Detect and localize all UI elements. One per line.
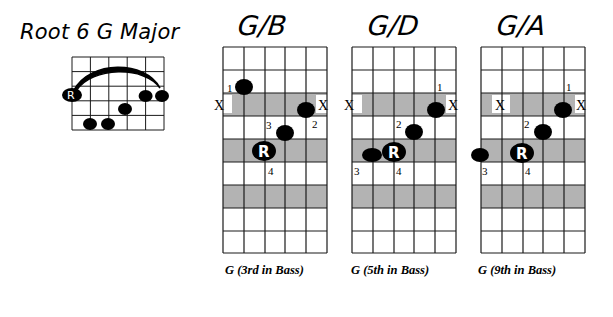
finger-dot-3 <box>276 125 294 141</box>
mute-marker: X <box>448 98 458 113</box>
root-label: R <box>516 145 528 163</box>
finger-number-3: 3 <box>482 165 488 177</box>
note-dot <box>139 90 153 102</box>
fretboard-g-b: R X X 1 2 3 4 <box>212 47 336 253</box>
finger-dot-3 <box>362 148 382 162</box>
finger-number-2: 2 <box>312 118 318 130</box>
barre-arc <box>74 67 160 91</box>
finger-number-4: 4 <box>396 165 402 177</box>
note-dot <box>155 90 169 102</box>
finger-number-1: 1 <box>566 81 572 93</box>
root-label: R <box>67 89 75 102</box>
finger-dot-2 <box>405 124 423 140</box>
finger-number-4: 4 <box>268 165 274 177</box>
fretboard-g-d: R X X 1 2 3 4 <box>342 47 466 253</box>
caption-g-b: G (3rd in Bass) <box>225 263 304 278</box>
mute-marker: X <box>344 98 354 113</box>
note-dot <box>118 103 132 115</box>
finger-dot-1 <box>554 102 572 118</box>
mute-marker: X <box>318 98 328 113</box>
reference-notes <box>62 88 169 130</box>
fretboard-g-a: R X X 1 2 3 4 <box>471 47 595 253</box>
finger-number-3: 3 <box>354 165 360 177</box>
caption-g-a: G (9th in Bass) <box>478 263 556 278</box>
finger-number-3: 3 <box>266 119 272 131</box>
finger-number-1: 1 <box>227 82 233 94</box>
finger-dot-1 <box>427 102 445 118</box>
finger-number-2: 2 <box>524 118 530 130</box>
caption-g-d: G (5th in Bass) <box>351 263 429 278</box>
finger-number-4: 4 <box>525 165 531 177</box>
mute-marker: X <box>214 98 224 113</box>
mute-marker: X <box>495 98 505 113</box>
finger-dot-1 <box>235 79 253 95</box>
finger-number-2: 2 <box>396 118 402 130</box>
root-label: R <box>258 143 270 161</box>
mute-marker: X <box>576 98 586 113</box>
finger-dot-2 <box>534 124 552 140</box>
note-dot <box>101 118 115 130</box>
note-dot <box>83 118 97 130</box>
root-label: R <box>388 144 400 162</box>
finger-dot-2 <box>297 102 315 118</box>
finger-dot-3 <box>471 148 489 162</box>
finger-number-1: 1 <box>437 81 443 93</box>
